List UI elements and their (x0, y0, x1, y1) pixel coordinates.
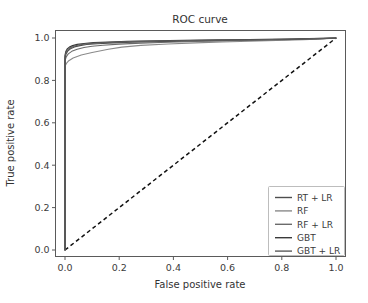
y-tick-label-1.0: 1.0 (34, 32, 49, 43)
chart-legend: RT + LRRFRF + LRGBTGBT + LR (269, 187, 345, 257)
x-tick-label-0.4: 0.4 (166, 262, 181, 273)
x-tick-label-0.0: 0.0 (57, 262, 72, 273)
y-axis-title: True positive rate (5, 99, 16, 187)
x-tick-label-0.2: 0.2 (112, 262, 127, 273)
x-axis-title: False positive rate (155, 279, 246, 290)
x-tick-label-1.0: 1.0 (328, 262, 343, 273)
legend-label-gbt-lr: GBT + LR (297, 246, 340, 256)
y-tick-label-0.6: 0.6 (34, 117, 49, 128)
chart-title: ROC curve (172, 13, 228, 25)
y-tick-label-0.0: 0.0 (34, 244, 49, 255)
legend-label-gbt: GBT (297, 233, 316, 243)
x-tick-label-0.8: 0.8 (274, 262, 289, 273)
x-tick-label-0.6: 0.6 (220, 262, 235, 273)
roc-curve-figure: ROC curve 0.00.20.40.60.81.0 0.00.20.40.… (0, 0, 368, 303)
y-tick-label-0.2: 0.2 (34, 202, 49, 213)
chart-canvas: ROC curve 0.00.20.40.60.81.0 0.00.20.40.… (0, 0, 368, 303)
legend-label-rt-lr: RT + LR (297, 193, 333, 203)
y-tick-label-0.8: 0.8 (34, 75, 49, 86)
legend-label-rf-lr: RF + LR (297, 220, 333, 230)
legend-label-rf: RF (297, 206, 308, 216)
y-tick-label-0.4: 0.4 (34, 160, 49, 171)
